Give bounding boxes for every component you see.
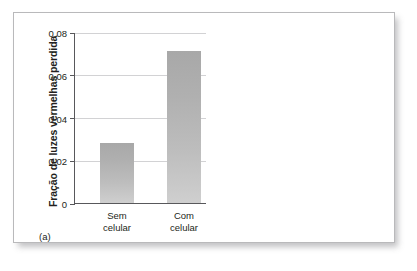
y-axis-tick-label: 0,04 (49, 113, 68, 124)
y-axis-tick-label: 0 (62, 199, 67, 210)
y-axis-tick-label: 0,06 (49, 70, 68, 81)
y-axis-tick-label: 0,08 (49, 28, 68, 39)
panel-a-caption: (a) (39, 231, 51, 242)
figure-container: Fração de luzes vermelhas perdida 00,020… (0, 0, 417, 271)
figure-plate: Fração de luzes vermelhas perdida 00,020… (13, 12, 395, 243)
y-axis-tick (70, 161, 75, 162)
y-axis-tick (70, 33, 75, 34)
gridline (75, 33, 206, 34)
x-axis-category-label: Com celular (153, 210, 215, 233)
y-axis-tick (70, 204, 75, 205)
y-axis-tick (70, 118, 75, 119)
x-axis-category-label: Sem celular (86, 210, 148, 233)
panel-a-plot-area: 00,020,040,060,08Sem celularCom celular (74, 33, 206, 204)
y-axis-tick (70, 75, 75, 76)
bar (100, 143, 134, 203)
bar (167, 51, 201, 203)
panel-b: Tempo de reação (ms) 450500600Sem celula… (210, 13, 396, 242)
y-axis-tick-label: 0,02 (49, 156, 68, 167)
panel-a: Fração de luzes vermelhas perdida 00,020… (14, 13, 210, 242)
